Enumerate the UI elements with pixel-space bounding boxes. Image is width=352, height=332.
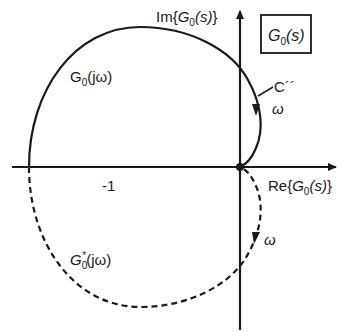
direction-arrow-lower bbox=[252, 232, 260, 244]
contour-leader-line bbox=[258, 87, 273, 96]
nyquist-curve-dashed bbox=[29, 167, 261, 307]
critical-point-label: -1 bbox=[102, 177, 115, 194]
origin-point bbox=[236, 163, 244, 171]
contour-label: C´´ bbox=[274, 78, 295, 95]
imaginary-axis-label: Im{G0(s)} bbox=[156, 8, 217, 28]
nyquist-curve-solid bbox=[29, 27, 261, 167]
omega-label-upper: ω bbox=[272, 100, 284, 117]
real-axis-label: Re{G0(s)} bbox=[268, 177, 332, 197]
dashed-curve-label: G0*(jω) bbox=[70, 250, 111, 271]
omega-label-lower: ω bbox=[264, 231, 276, 248]
nyquist-diagram: G0(s) Im{G0(s)} Re{G0(s)} G0(jω) G0*(jω)… bbox=[0, 0, 352, 332]
solid-curve-label: G0(jω) bbox=[70, 68, 112, 88]
